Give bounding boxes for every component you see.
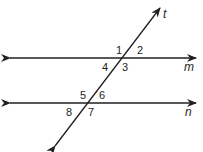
angle-1: 1 [116, 44, 122, 56]
label-t: t [163, 7, 167, 21]
label-m: m [184, 60, 194, 74]
angle-2: 2 [137, 44, 143, 56]
angle-5: 5 [80, 89, 86, 101]
angle-7: 7 [88, 106, 94, 118]
angle-6: 6 [99, 89, 105, 101]
angle-4: 4 [102, 61, 108, 73]
transversal-t [55, 8, 160, 146]
angle-8: 8 [66, 106, 72, 118]
angle-3: 3 [122, 61, 128, 73]
label-n: n [185, 105, 192, 119]
parallel-lines-diagram: t m n 1 2 3 4 5 6 7 8 [0, 0, 203, 152]
